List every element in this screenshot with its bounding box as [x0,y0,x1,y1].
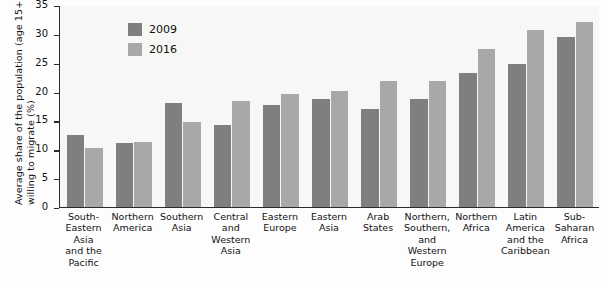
x-axis-label-2: SouthernAsia [154,211,209,234]
x-axis-label-10: Sub-SaharanAfrica [547,211,601,245]
legend: 2009 2016 [128,23,177,63]
x-axis-label-line: States [351,222,406,233]
legend-item-2016: 2016 [128,43,177,56]
x-axis-label-line: and the [498,234,553,245]
bar-2016-7 [429,81,447,207]
x-axis-label-line: Western [203,234,258,245]
bar-2009-9 [508,64,526,207]
bar-2016-8 [478,49,496,207]
x-axis-label-line: South- [56,211,111,222]
bar-2016-1 [134,142,152,207]
bar-2016-5 [331,91,349,207]
x-axis-label-line: Eastern [252,211,307,222]
x-axis-label-line: America [498,222,553,233]
chart-page: Average share of the population (age 15+… [0,0,601,281]
legend-label-2016: 2016 [149,43,177,56]
x-axis-label-7: Northern,Southern,andWesternEurope [400,211,455,268]
x-axis-label-6: ArabStates [351,211,406,234]
x-axis-label-line: Africa [547,234,601,245]
x-axis-label-line: Saharan [547,222,601,233]
x-axis-label-8: NorthernAfrica [449,211,504,234]
x-axis-label-5: EasternAsia [301,211,356,234]
bar-2009-0 [67,135,85,207]
bar-2009-4 [263,105,281,207]
x-axis-label-line: Latin [498,211,553,222]
x-axis-label-line: Southern, [400,222,455,233]
x-axis-label-line: Asia [154,222,209,233]
x-axis-label-line: Arab [351,211,406,222]
x-axis-label-line: Pacific [56,257,111,268]
x-axis-label-3: CentralandWesternAsia [203,211,258,257]
legend-swatch-2009-icon [128,23,142,36]
bar-2009-6 [361,109,379,207]
x-axis-label-line: Europe [400,257,455,268]
bar-2009-2 [165,103,183,207]
legend-swatch-2016-icon [128,43,142,56]
bar-2009-10 [557,37,575,207]
x-axis-label-line: Western [400,245,455,256]
bar-2009-1 [116,143,134,207]
y-axis-tick: 35 [0,6,59,7]
y-axis-tick-label: 15 [35,114,48,125]
y-axis-tick-label: 30 [35,28,48,39]
bar-2009-3 [214,125,232,207]
x-axis-labels: South-EasternAsiaand thePacificNorthernA… [59,211,599,281]
y-axis-tick-label: 0 [42,201,48,212]
x-axis-label-line: and [400,234,455,245]
y-axis-tick: 20 [0,93,59,94]
y-axis-tick: 25 [0,64,59,65]
x-axis-label-line: and the [56,245,111,256]
x-axis-label-line: Eastern [301,211,356,222]
x-axis-label-line: Asia [301,222,356,233]
bar-2009-8 [459,73,477,207]
y-axis-tick: 30 [0,35,59,36]
bar-2016-3 [232,101,250,207]
x-axis-label-line: Northern [105,211,160,222]
bar-2016-4 [281,94,299,207]
bar-2009-7 [410,99,428,208]
y-axis-tick: 0 [0,208,59,209]
y-axis-tick: 10 [0,150,59,151]
x-axis-label-line: Europe [252,222,307,233]
y-axis-title: Average share of the population (age 15+… [0,0,30,212]
x-axis-label-line: Central [203,211,258,222]
x-axis-label-line: Southern [154,211,209,222]
bar-2016-9 [527,30,545,207]
x-axis-label-9: LatinAmericaand theCaribbean [498,211,553,257]
y-axis-tick-label: 10 [35,143,48,154]
x-axis-label-line: Northern [449,211,504,222]
bar-2016-10 [576,22,594,207]
y-axis-tick-label: 35 [35,0,48,10]
x-axis-label-line: and [203,222,258,233]
y-axis-tick: 5 [0,179,59,180]
x-axis-label-line: Asia [203,245,258,256]
y-axis-tick-mark [54,208,59,209]
bar-2009-5 [312,99,330,208]
plot-area: 2009 2016 [59,6,599,208]
x-axis-label-line: Eastern [56,222,111,233]
legend-label-2009: 2009 [149,23,177,36]
y-axis-tick-label: 20 [35,86,48,97]
y-axis-title-line-1: Average share of the population (age 15+… [13,0,24,205]
x-axis-label-line: America [105,222,160,233]
legend-item-2009: 2009 [128,23,177,36]
y-axis-tick-label: 25 [35,57,48,68]
x-axis-label-1: NorthernAmerica [105,211,160,234]
y-axis-tick-label: 5 [42,172,48,183]
y-axis-tick: 15 [0,121,59,122]
bar-2016-0 [85,148,103,207]
x-axis-label-line: Sub- [547,211,601,222]
x-axis-label-line: Asia [56,234,111,245]
x-axis-label-line: Caribbean [498,245,553,256]
x-axis-label-line: Africa [449,222,504,233]
bar-2016-6 [380,81,398,207]
x-axis-label-4: EasternEurope [252,211,307,234]
bar-2016-2 [183,122,201,207]
x-axis-label-0: South-EasternAsiaand thePacific [56,211,111,268]
x-axis-label-line: Northern, [400,211,455,222]
